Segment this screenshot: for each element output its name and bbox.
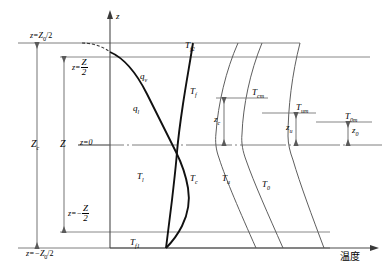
curve-label-Tu: Tu bbox=[222, 174, 230, 185]
marker-label-Tum: Tum bbox=[296, 103, 308, 114]
marker-label-T0m: T0m bbox=[345, 112, 357, 123]
axis-temperature-arrow bbox=[370, 245, 379, 251]
offset-label-z0: z0 bbox=[352, 126, 359, 137]
label-z-bot-inner: z=−Z2 bbox=[68, 204, 89, 224]
label-z-zero: z=0 bbox=[80, 139, 93, 147]
curve-label-qv: qv bbox=[140, 72, 147, 83]
curve-label-ql: ql bbox=[133, 104, 139, 115]
axis-temperature-label: 温度 bbox=[340, 252, 360, 262]
offset-label-zu: zu bbox=[286, 123, 293, 134]
curve-label-Tf2: Tf2 bbox=[185, 41, 195, 52]
curve-label-Tf1: Tf1 bbox=[130, 238, 140, 249]
curve-label-Tc: Tc bbox=[190, 174, 198, 185]
curve-Tu bbox=[242, 43, 283, 248]
offset-label-zc: zc bbox=[214, 115, 220, 126]
curve-T0 bbox=[288, 43, 324, 248]
figure-canvas: z 温度 z=0 z=Z0/2 z=Z2 z=−Z2 z=−Z0/2 Zc Z … bbox=[0, 0, 386, 276]
label-z-top-outer: z=Z0/2 bbox=[30, 32, 52, 42]
dim-zu-offset bbox=[293, 112, 298, 146]
curve-label-Tf: Tf bbox=[190, 87, 197, 98]
dim-z0-offset bbox=[345, 121, 350, 146]
dim-zc-offset bbox=[221, 97, 226, 146]
curve-qv-hook bbox=[82, 43, 110, 52]
curve-Tf bbox=[166, 43, 193, 248]
axis-z-label: z bbox=[116, 12, 120, 21]
label-z-bot-outer: z=−Z0/2 bbox=[26, 250, 54, 260]
curve-label-Tl: Tl bbox=[137, 172, 144, 183]
span-label-z: Z bbox=[60, 139, 66, 149]
label-z-top-inner: z=Z2 bbox=[72, 58, 88, 78]
curve-label-T0: T0 bbox=[262, 180, 270, 191]
marker-label-Tcm: Tcm bbox=[252, 88, 264, 99]
span-label-zc: Zc bbox=[31, 139, 39, 151]
axis-z-arrow bbox=[107, 10, 113, 19]
